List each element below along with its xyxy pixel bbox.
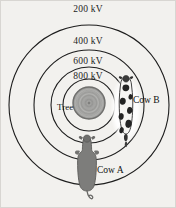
tree-graphic (73, 87, 105, 119)
contour-label-400kv: 400 kV (1, 36, 175, 46)
cow-a-label: Cow A (97, 165, 124, 175)
tree-label: Tree (57, 102, 73, 112)
cow-a-graphic (75, 135, 99, 199)
cow-b-label: Cow B (133, 95, 160, 105)
cow-b-graphic (110, 75, 142, 147)
contour-label-600kv: 600 kV (1, 56, 175, 66)
voltage-contour-figure: 200 kV 400 kV 600 kV 800 kV Tree Cow B C… (0, 0, 176, 208)
contour-label-800kv: 800 kV (1, 71, 175, 81)
contour-label-200kv: 200 kV (1, 4, 175, 14)
